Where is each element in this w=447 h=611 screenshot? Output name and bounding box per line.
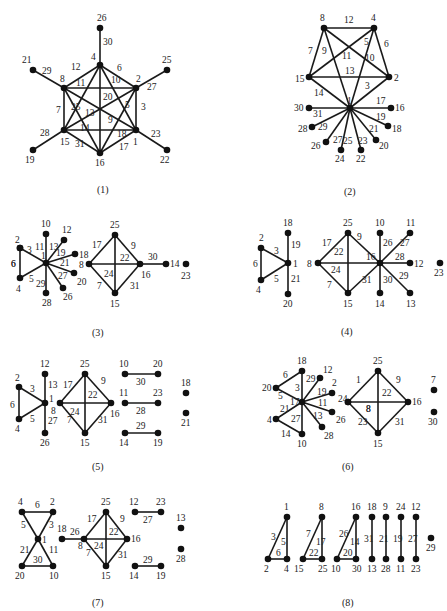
edge-label: 3	[49, 520, 54, 530]
edge-label: 17	[316, 537, 326, 547]
graph-vertex	[72, 251, 79, 258]
graph-vertex	[319, 514, 326, 521]
edge-label: 22	[120, 253, 130, 263]
edge-label: 5	[29, 274, 34, 284]
vertex-label: 8	[366, 404, 371, 414]
edge-label: 19	[317, 387, 327, 397]
graph-vertex	[35, 536, 42, 543]
edge-label: 27	[333, 135, 343, 145]
edge-group: 30126101152072591331814311729272823	[33, 28, 167, 153]
edge-label: 12	[71, 62, 81, 72]
edge-label: 29	[318, 122, 328, 132]
graph-vertex	[284, 514, 291, 521]
vertex-label: 28	[176, 554, 186, 564]
vertex-label: 18	[57, 524, 67, 534]
vertex-label: 8	[78, 541, 83, 551]
edge-label: 23	[358, 417, 368, 427]
edge-label: 17	[87, 514, 97, 524]
edge-label: 31	[313, 109, 323, 119]
graph-vertex	[164, 147, 171, 154]
edge-label: 30	[383, 275, 393, 285]
edge-label: 22	[309, 548, 319, 558]
edge-label: 3	[295, 383, 300, 393]
edge-label: 3	[27, 245, 32, 255]
vertex-label: 25	[101, 497, 111, 507]
vertex-label: 20	[283, 299, 293, 309]
edge-label: 24	[104, 269, 114, 279]
graph-vertex	[321, 25, 328, 32]
graph-vertex	[43, 231, 50, 238]
graph-vertex	[103, 563, 110, 570]
graph-vertex	[353, 514, 360, 521]
edge-label: 13	[313, 411, 323, 421]
vertex-label: 26	[311, 141, 321, 151]
vertex-label: 18	[181, 378, 191, 388]
edge-label: 5	[30, 414, 35, 424]
graph-vertex	[183, 261, 190, 268]
edge-label: 3	[30, 384, 35, 394]
graph-vertex	[43, 290, 50, 297]
edge-label: 6	[384, 39, 389, 49]
edge-label: 24	[94, 541, 104, 551]
edge-label: 17	[119, 142, 129, 152]
graph-vertex	[50, 509, 57, 516]
vertex-label: 28	[381, 564, 391, 574]
graph-vertex	[431, 409, 438, 416]
vertex-label: 26	[97, 13, 107, 23]
vertex-label: 23	[156, 497, 166, 507]
vertex-label: 12	[323, 365, 333, 375]
graph-figures-canvas: 3012610115207259133181431172927282326482…	[0, 0, 447, 611]
vertex-label: 15	[373, 439, 383, 449]
graph-vertex	[353, 556, 360, 563]
graph-figure: 1936521179222473126272830291821420258161…	[253, 218, 444, 338]
edge-label: 30	[33, 555, 43, 565]
graph-vertex	[61, 127, 68, 134]
graph-vertex	[319, 556, 326, 563]
edge-label: 29	[306, 374, 316, 384]
edge-label: 14	[350, 537, 360, 547]
graph-vertex	[358, 147, 365, 154]
graph-vertex	[82, 430, 89, 437]
vertex-label: 12	[129, 497, 139, 507]
vertex-label: 16	[95, 158, 105, 168]
graph-vertex	[97, 25, 104, 32]
vertex-label: 16	[131, 534, 141, 544]
edge-label: 21	[280, 404, 290, 414]
graph-vertex	[122, 430, 129, 437]
graph-vertex	[345, 290, 352, 297]
vertex-label: 2	[394, 73, 399, 83]
vertex-label: 1	[42, 535, 47, 545]
graph-vertex	[407, 230, 414, 237]
edge-label: 11	[76, 78, 85, 88]
graph-vertex	[375, 430, 382, 437]
edge-label: 14	[80, 123, 90, 133]
edge-label: 26	[383, 238, 393, 248]
graph-vertex	[86, 261, 93, 268]
vertex-label: 4	[267, 415, 272, 425]
graph-vertex	[178, 525, 185, 532]
vertex-label: 25	[80, 359, 90, 369]
graph-vertex	[338, 147, 345, 154]
vertex-label: 1	[133, 137, 138, 147]
edge-label: 11	[342, 51, 351, 61]
vertex-label: 16	[110, 409, 120, 419]
edge-label: 3	[365, 81, 370, 91]
edge-label: 28	[40, 128, 50, 138]
edge-label: 3	[274, 246, 279, 256]
edge-label: 9	[120, 514, 125, 524]
graph-vertex	[30, 147, 37, 154]
edge-label: 13	[345, 66, 355, 76]
graph-vertex	[413, 514, 420, 521]
graph-vertex	[299, 368, 306, 375]
vertex-label: 8	[307, 259, 312, 269]
edge-label: 14	[281, 429, 291, 439]
graph-vertex	[405, 399, 412, 406]
figure-caption: (4)	[341, 326, 353, 338]
edge-label: 11	[318, 398, 327, 408]
vertex-label: 29	[426, 543, 436, 553]
vertex-label: 25	[318, 564, 328, 574]
edge-label: 5	[278, 391, 283, 401]
graph-vertex	[369, 556, 376, 563]
graph-vertex	[431, 387, 438, 394]
vertex-label: 23	[153, 388, 163, 398]
